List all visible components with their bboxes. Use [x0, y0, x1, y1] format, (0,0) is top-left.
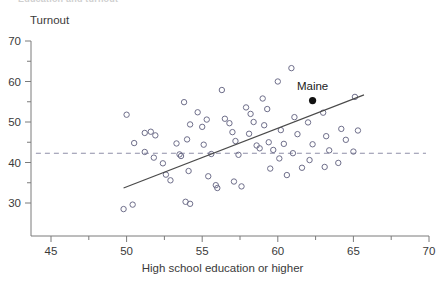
data-point: [231, 179, 236, 184]
data-point: [121, 206, 126, 211]
scatter-plot-figure: Education and turnout Turnout Maine 3040…: [0, 0, 445, 289]
data-point: [355, 128, 360, 133]
data-point: [281, 141, 286, 146]
data-point: [265, 106, 270, 111]
x-axis-title: High school education or higher: [0, 262, 445, 274]
data-point: [260, 96, 265, 101]
data-point: [336, 160, 341, 165]
data-point: [305, 120, 310, 125]
x-tick-label: 60: [271, 245, 284, 257]
data-point: [131, 140, 136, 145]
data-point: [248, 111, 253, 116]
data-point: [339, 126, 344, 131]
data-point: [275, 79, 280, 84]
data-point: [266, 140, 271, 145]
data-point: [187, 201, 192, 206]
data-point: [261, 123, 266, 128]
data-point: [204, 117, 209, 122]
data-point: [307, 157, 312, 162]
data-point: [201, 142, 206, 147]
data-point: [277, 156, 282, 161]
y-tick-label: 60: [8, 76, 21, 88]
data-point: [130, 202, 135, 207]
data-point: [187, 122, 192, 127]
data-point: [200, 124, 205, 129]
y-tick-label: 40: [8, 157, 21, 169]
data-point: [222, 116, 227, 121]
x-tick-label: 50: [120, 245, 133, 257]
data-point: [142, 149, 147, 154]
data-point: [227, 121, 232, 126]
y-tick-label: 50: [8, 116, 21, 128]
highlight-point: [309, 97, 316, 104]
data-point: [168, 178, 173, 183]
data-point: [233, 138, 238, 143]
data-point: [289, 65, 294, 70]
data-point: [310, 142, 315, 147]
data-point: [239, 184, 244, 189]
data-point: [195, 110, 200, 115]
highlight-point-label: Maine: [297, 80, 328, 92]
x-tick-label: 45: [45, 245, 58, 257]
data-point: [323, 133, 328, 138]
data-point: [271, 147, 276, 152]
data-point: [153, 133, 158, 138]
data-point: [299, 165, 304, 170]
tick-label-layer: 3040506070455055606570: [8, 35, 435, 257]
x-tick-label: 70: [423, 245, 436, 257]
data-point: [186, 168, 191, 173]
data-point: [142, 130, 147, 135]
data-point: [327, 148, 332, 153]
x-tick-label: 65: [347, 245, 360, 257]
data-point: [251, 119, 256, 124]
y-tick-label: 70: [8, 35, 21, 47]
data-point: [292, 114, 297, 119]
plot-area: Maine 3040506070455055606570: [0, 0, 445, 289]
data-point: [243, 105, 248, 110]
data-point: [284, 172, 289, 177]
axes-layer: [25, 41, 429, 242]
data-point: [322, 164, 327, 169]
data-point: [184, 137, 189, 142]
data-point: [206, 174, 211, 179]
y-tick-label: 30: [8, 197, 21, 209]
data-point: [246, 131, 251, 136]
data-point: [295, 131, 300, 136]
data-point: [268, 166, 273, 171]
x-tick-label: 55: [196, 245, 209, 257]
data-point: [174, 141, 179, 146]
data-point: [181, 99, 186, 104]
data-point: [343, 137, 348, 142]
highlight-point-layer: Maine: [297, 80, 328, 105]
data-point: [230, 129, 235, 134]
data-point: [124, 112, 129, 117]
data-point: [219, 87, 224, 92]
data-point: [160, 161, 165, 166]
data-point: [151, 155, 156, 160]
